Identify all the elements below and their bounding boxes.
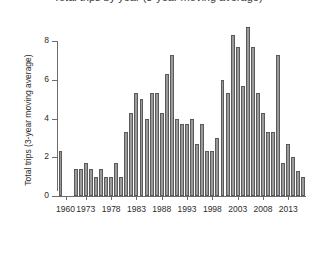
bar <box>150 93 154 196</box>
bar <box>114 163 118 196</box>
bar <box>59 151 63 196</box>
bar <box>266 132 270 196</box>
bar <box>165 74 169 196</box>
bar <box>175 119 179 197</box>
bar <box>155 93 159 196</box>
bar <box>129 113 133 196</box>
bar <box>104 177 108 196</box>
bar-chart: Total trips by year (3-year moving avera… <box>0 0 316 259</box>
bar <box>200 124 204 196</box>
bar <box>109 177 113 196</box>
bar <box>94 177 98 196</box>
bar <box>236 47 240 196</box>
bar <box>84 163 88 196</box>
bars-layer <box>0 0 316 259</box>
bar <box>170 55 174 196</box>
bar <box>286 144 290 196</box>
bar <box>226 93 230 196</box>
bar <box>74 169 78 196</box>
bar <box>221 80 225 196</box>
bar <box>185 124 189 196</box>
bar <box>296 171 300 196</box>
bar <box>231 35 235 196</box>
bar <box>119 177 123 196</box>
bar <box>124 132 128 196</box>
bar <box>246 27 250 196</box>
bar <box>251 47 255 196</box>
bar <box>215 138 219 196</box>
bar <box>180 124 184 196</box>
bar <box>256 93 260 196</box>
bar <box>145 119 149 197</box>
bar <box>160 113 164 196</box>
bar <box>140 99 144 196</box>
bar <box>79 169 83 196</box>
bar <box>134 93 138 196</box>
bar <box>99 169 103 196</box>
bar <box>291 157 295 196</box>
bar <box>89 169 93 196</box>
bar <box>276 55 280 196</box>
bar <box>205 151 209 196</box>
bar <box>281 163 285 196</box>
bar <box>271 132 275 196</box>
bar <box>195 144 199 196</box>
bar <box>210 151 214 196</box>
bar <box>261 113 265 196</box>
bar <box>241 86 245 196</box>
bar <box>301 177 305 196</box>
bar <box>190 119 194 197</box>
